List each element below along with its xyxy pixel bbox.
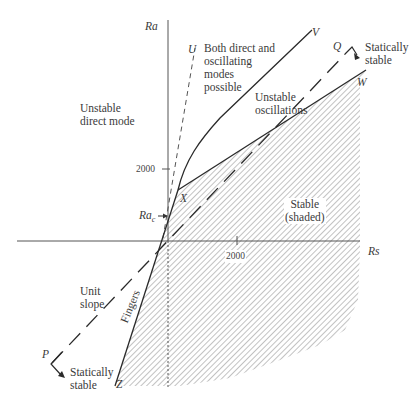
label-unstable-direct: Unstable direct mode <box>80 102 135 128</box>
rs-tick-label: 2000 <box>225 250 246 263</box>
point-w-label: W <box>357 76 367 89</box>
label-line: Unstable <box>255 91 307 104</box>
label-line: Unstable <box>80 102 135 115</box>
label-stable-shaded: Stable (shaded) <box>284 198 326 224</box>
label-statically-stable-p: Statically stable <box>70 366 113 392</box>
point-z-label: Z <box>116 378 122 391</box>
label-line: Both direct and <box>204 42 275 55</box>
label-line: (shaded) <box>284 211 326 224</box>
label-line: stable <box>70 379 113 392</box>
label-line: stable <box>365 54 408 67</box>
label-line: direct mode <box>80 115 135 128</box>
ra-critical-main: Ra <box>139 209 152 221</box>
label-line: Unit <box>80 285 104 298</box>
point-u-label: U <box>188 43 196 56</box>
label-unit-slope: Unit slope <box>80 285 104 311</box>
label-line: oscillations <box>255 104 307 117</box>
label-line: Statically <box>70 366 113 379</box>
label-line: oscillating <box>204 55 275 68</box>
stable-region-shading <box>115 70 366 386</box>
point-p-label: P <box>42 348 49 361</box>
point-x-label: X <box>180 192 187 205</box>
label-both-modes: Both direct and oscillating modes possib… <box>204 42 275 94</box>
p-arrow <box>51 352 62 375</box>
label-line: Statically <box>365 41 408 54</box>
rs-axis-label: Rs <box>368 245 380 258</box>
q-arrow <box>347 47 357 55</box>
ra-critical-sub: c <box>152 215 156 224</box>
ra-critical-label: Rac <box>139 209 155 226</box>
ra-axis-label: Ra <box>145 20 158 33</box>
point-v-label: V <box>312 26 319 39</box>
rac-arrowhead-icon <box>163 214 168 219</box>
point-q-label: Q <box>333 40 341 53</box>
label-line: slope <box>80 298 104 311</box>
label-line: Stable <box>284 198 326 211</box>
label-line: modes <box>204 68 275 81</box>
label-statically-stable-q: Statically stable <box>365 41 408 67</box>
ra-tick-label: 2000 <box>136 163 155 176</box>
label-unstable-oscillations: Unstable oscillations <box>255 91 307 117</box>
